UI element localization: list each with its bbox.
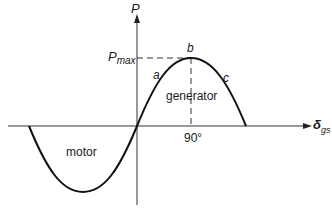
- region-label-motor: motor: [66, 146, 97, 158]
- point-label-b: b: [187, 42, 194, 54]
- x-axis-label-main: δ: [313, 117, 321, 132]
- point-label-a: a: [153, 69, 160, 81]
- pmax-label-main: P: [108, 49, 117, 64]
- diagram-canvas: [0, 0, 332, 209]
- pmax-label-sub: max: [117, 55, 136, 66]
- point-label-c: c: [223, 72, 229, 84]
- region-label-generator: generator: [166, 90, 217, 102]
- tick-label-90: 90°: [184, 132, 202, 144]
- x-axis-arrow-icon: [303, 123, 312, 129]
- x-axis-label: δgs: [313, 118, 330, 131]
- x-axis-label-sub: gs: [321, 125, 331, 135]
- pmax-label: Pmax: [108, 50, 136, 63]
- power-angle-diagram: P Pmax b a c generator motor 90° δgs: [0, 0, 332, 209]
- y-axis-label: P: [131, 2, 140, 15]
